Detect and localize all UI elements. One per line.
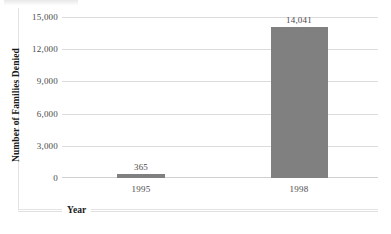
gridline — [62, 146, 378, 147]
bar-chart: Number of Families Denied 15,000 12,000 … — [0, 0, 391, 234]
bar-1998[interactable] — [271, 27, 328, 178]
gridline — [62, 81, 378, 82]
gridline — [62, 49, 378, 50]
y-axis-tick-label: 12,000 — [12, 44, 58, 54]
plot-area — [62, 17, 378, 178]
cropped-text-artifact — [4, 0, 78, 5]
y-axis-tick-label: 6,000 — [12, 109, 58, 119]
x-axis-tick-label-1998: 1998 — [259, 184, 339, 194]
x-axis-title: Year — [62, 205, 91, 215]
x-axis-tick-label-1995: 1995 — [101, 184, 181, 194]
bar-1995[interactable] — [117, 174, 165, 178]
y-axis-tick-labels: 15,000 12,000 9,000 6,000 3,000 0 — [10, 17, 58, 178]
y-axis-tick-label: 15,000 — [12, 12, 58, 22]
y-axis-tick-label: 3,000 — [12, 141, 58, 151]
y-axis-tick-label: 0 — [12, 173, 58, 183]
bar-value-label-1998: 14,041 — [259, 15, 339, 25]
gridline — [62, 114, 378, 115]
gridline-baseline — [62, 177, 378, 178]
bar-value-label-1995: 365 — [101, 162, 181, 172]
y-axis-tick-label: 9,000 — [12, 76, 58, 86]
